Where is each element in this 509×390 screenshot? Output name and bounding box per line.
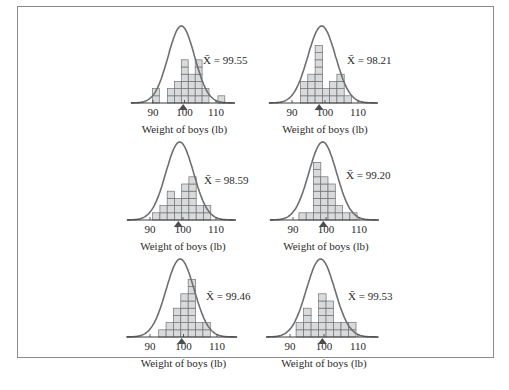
x-tick-label: 110 <box>350 106 367 118</box>
histogram-box <box>173 330 180 337</box>
histogram-column <box>304 308 312 337</box>
histogram-box <box>326 315 334 322</box>
histogram-box <box>321 191 328 198</box>
histogram-box <box>319 294 327 301</box>
histogram-box <box>337 96 344 103</box>
histogram-box <box>321 206 328 213</box>
histogram-box <box>319 315 327 322</box>
histogram-box <box>311 330 319 337</box>
histogram-box <box>335 213 342 220</box>
histogram-box <box>188 301 195 308</box>
histogram-box <box>181 315 188 322</box>
sample-mean-label: X̄ = 98.21 <box>347 54 391 66</box>
histogram-panel-middle-right: 90100110Weight of boys (lb)X̄ = 99.20 <box>270 142 391 253</box>
histogram-box <box>328 198 335 205</box>
histogram-box <box>188 330 195 337</box>
histogram-box <box>315 53 322 60</box>
histogram-box <box>308 96 315 103</box>
x-tick-label: 110 <box>209 340 226 352</box>
histogram-box <box>159 330 166 337</box>
histogram-column <box>296 323 304 337</box>
histogram-box <box>174 81 181 88</box>
histogram-box <box>181 60 188 67</box>
histogram-box <box>196 206 203 213</box>
histogram-box <box>173 323 180 330</box>
histogram-box <box>160 213 167 220</box>
histogram-column <box>174 198 181 220</box>
histogram-box <box>341 330 349 337</box>
histogram-box <box>167 191 174 198</box>
histogram-box <box>181 89 188 96</box>
histogram-box <box>166 323 173 330</box>
histogram-column <box>314 162 321 220</box>
histogram-box <box>174 96 181 103</box>
histogram-column <box>196 206 203 220</box>
histogram-box <box>181 308 188 315</box>
x-tick-label: 90 <box>148 106 160 118</box>
histogram-box <box>188 89 195 96</box>
histogram-box <box>204 213 211 220</box>
histogram-box <box>174 206 181 213</box>
histogram-box <box>195 89 202 96</box>
histogram-box <box>195 81 202 88</box>
histogram-box <box>202 96 209 103</box>
histogram-column <box>188 74 195 103</box>
histogram-box <box>311 323 319 330</box>
histogram-column <box>321 177 328 220</box>
histogram-grid: 90100110Weight of boys (lb)X̄ = 99.55901… <box>0 0 509 390</box>
histogram-box <box>296 330 304 337</box>
histogram-box <box>326 330 334 337</box>
histogram-box <box>304 323 312 330</box>
histogram-box <box>153 213 160 220</box>
histogram-box <box>189 213 196 220</box>
histogram-box <box>335 206 342 213</box>
histogram-box <box>319 301 327 308</box>
histogram-column <box>319 294 327 337</box>
histogram-box <box>188 96 195 103</box>
histogram-box <box>182 184 189 191</box>
histogram-column <box>181 60 188 103</box>
histogram-box <box>330 89 337 96</box>
histogram-box <box>301 89 308 96</box>
histogram-box <box>321 213 328 220</box>
histogram-column <box>311 323 319 337</box>
x-tick-label: 90 <box>145 340 157 352</box>
histogram-box <box>304 330 312 337</box>
histogram-box <box>189 191 196 198</box>
histogram-box <box>322 89 329 96</box>
histogram-column <box>322 89 329 103</box>
histogram-box <box>181 81 188 88</box>
x-tick-label: 110 <box>208 106 225 118</box>
histogram-box <box>188 74 195 81</box>
histogram-column <box>196 323 203 337</box>
histogram-box <box>181 67 188 74</box>
x-tick-label: 90 <box>145 223 157 235</box>
histogram-column <box>299 213 306 220</box>
sample-mean-label: X̄ = 99.53 <box>348 290 393 302</box>
histogram-column <box>326 301 334 337</box>
x-tick-label: 110 <box>351 223 368 235</box>
histogram-box <box>173 315 180 322</box>
histogram-column <box>174 81 181 103</box>
histogram-box <box>168 89 175 96</box>
histogram-box <box>337 89 344 96</box>
histogram-column <box>181 294 188 337</box>
histogram-box <box>296 323 304 330</box>
x-axis-title: Weight of boys (lb) <box>141 357 227 370</box>
histogram-box <box>304 308 312 315</box>
histogram-column <box>330 81 337 103</box>
sample-mean-label: X̄ = 99.46 <box>206 290 251 302</box>
histogram-box <box>173 308 180 315</box>
histogram-box <box>301 81 308 88</box>
histogram-box <box>315 60 322 67</box>
histogram-column <box>189 177 196 220</box>
histogram-column <box>168 89 175 103</box>
histogram-box <box>189 184 196 191</box>
sample-mean-label: X̄ = 99.55 <box>203 54 248 66</box>
histogram-box <box>334 330 342 337</box>
histogram-box <box>315 67 322 74</box>
histogram-box <box>314 206 321 213</box>
x-axis-title: Weight of boys (lb) <box>283 240 369 253</box>
histogram-box <box>189 198 196 205</box>
histogram-box <box>330 81 337 88</box>
